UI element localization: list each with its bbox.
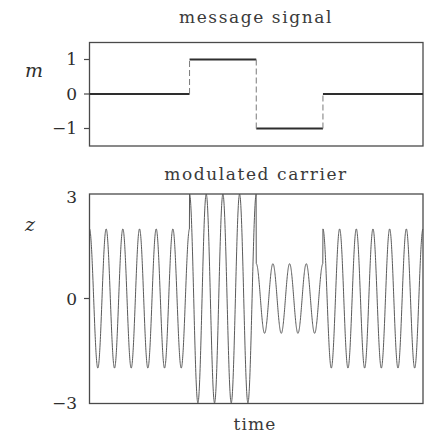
tick-label-z-minus3: −3	[52, 393, 77, 413]
z-axis-label: z	[24, 213, 36, 235]
tick-label-m-1: 1	[66, 49, 77, 69]
time-axis-label: time	[233, 414, 276, 434]
tick-label-m-0: 0	[66, 84, 77, 104]
modulated-carrier-line	[90, 194, 424, 403]
modulated-carrier-title: modulated carrier	[164, 164, 348, 184]
tick-label-z-3: 3	[66, 187, 77, 207]
message-signal-title: message signal	[179, 7, 333, 27]
message-signal-plot: message signal m 1 0 −1	[25, 7, 423, 146]
carrier-waveform	[90, 194, 424, 403]
modulated-carrier-plot: modulated carrier z 3 0 −3 time	[24, 164, 423, 434]
m-axis-label: m	[25, 59, 43, 81]
figure: message signal m 1 0 −1 modulated carrie…	[0, 0, 442, 447]
message-signal-line	[90, 60, 424, 129]
tick-label-z-0: 0	[66, 289, 77, 309]
tick-label-m-minus1: −1	[52, 118, 77, 138]
